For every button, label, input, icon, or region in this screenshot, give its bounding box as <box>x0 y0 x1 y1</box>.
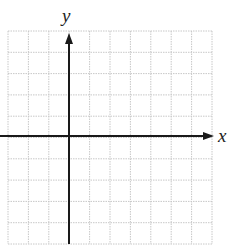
grid-lines <box>8 31 212 244</box>
y-axis-label: y <box>60 5 71 26</box>
y-axis-arrow-icon <box>65 33 73 44</box>
coordinate-plane: x y <box>0 0 234 248</box>
x-axis-label: x <box>217 125 227 146</box>
